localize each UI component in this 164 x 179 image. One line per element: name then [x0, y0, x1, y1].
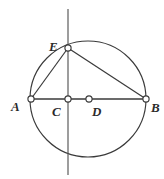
point-marker-E [65, 45, 71, 51]
point-marker-D [86, 96, 92, 102]
point-label-c: C [52, 105, 61, 118]
point-label-e: E [49, 40, 58, 53]
point-marker-C [65, 96, 71, 102]
point-label-b: B [151, 101, 160, 114]
point-label-a: A [11, 100, 20, 113]
geometry-figure: A C D B E [0, 0, 164, 179]
point-marker-A [28, 96, 34, 102]
point-label-d: D [92, 105, 101, 118]
chord-eb-line [68, 48, 146, 99]
point-marker-B [143, 96, 149, 102]
geometry-canvas [0, 0, 164, 179]
